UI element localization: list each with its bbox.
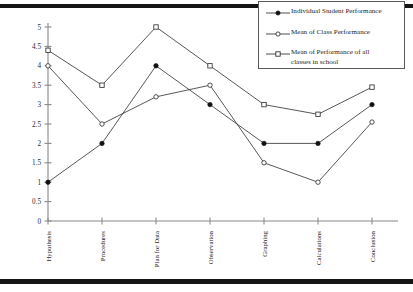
y-tick-label: 2.5: [32, 121, 41, 129]
data-point: [46, 180, 50, 184]
y-axis: 00.511.522.533.544.55: [32, 23, 51, 226]
series-1: [46, 64, 374, 185]
y-tick-label: 4: [37, 62, 41, 70]
legend-marker-filled-circle-icon: [265, 8, 291, 18]
chart-page: 00.511.522.533.544.55 HypothesisProcedur…: [0, 0, 413, 292]
x-tick-label: Calculations: [315, 231, 322, 265]
y-tick-label: 0: [37, 218, 41, 226]
y-tick-label: 2: [37, 140, 41, 148]
y-tick-label: 4.5: [32, 43, 41, 51]
x-tick-label: Procedures: [99, 231, 106, 262]
data-point: [370, 102, 374, 106]
y-tick-label: 3: [37, 101, 41, 109]
series-2: [46, 64, 374, 185]
data-point: [316, 141, 320, 145]
y-tick-label: 5: [37, 24, 41, 32]
data-point: [46, 64, 50, 68]
x-tick-label: Conclusion: [369, 230, 376, 262]
data-point: [154, 95, 158, 99]
legend-item-mean-of-performance-all-classes: Mean of Performance of all classes in sc…: [265, 48, 369, 67]
data-point: [370, 120, 374, 124]
legend-marker-open-square-icon: [265, 49, 291, 59]
y-tick-label: 3.5: [32, 82, 41, 90]
bottom-divider-rule: [0, 279, 413, 284]
data-point: [208, 64, 212, 68]
legend-marker-open-circle-icon: [265, 29, 291, 39]
data-point: [208, 83, 212, 87]
data-point: [316, 112, 320, 116]
y-tick-label: 1: [37, 179, 41, 187]
legend-item-individual-student-performance: Individual Student Performance: [265, 7, 382, 18]
data-point: [100, 122, 104, 126]
data-point: [316, 180, 320, 184]
x-tick-label: Plan for Data: [153, 231, 160, 267]
data-point: [100, 141, 104, 145]
y-tick-label: 1.5: [32, 159, 41, 167]
data-point: [154, 64, 158, 68]
legend-label: Mean of Class Performance: [291, 28, 370, 38]
y-tick-group: 00.511.522.533.544.55: [32, 24, 51, 226]
x-axis: HypothesisProceduresPlan for DataObserva…: [45, 218, 398, 268]
data-point: [208, 102, 212, 106]
data-point: [100, 83, 104, 87]
data-point: [370, 85, 374, 89]
data-point: [262, 102, 266, 106]
legend-item-mean-of-class-performance: Mean of Class Performance: [265, 28, 370, 39]
data-point: [154, 25, 158, 29]
chart-legend: Individual Student Performance Mean of C…: [258, 1, 405, 69]
x-tick-label: Hypothesis: [45, 231, 52, 262]
x-tick-label: Graphing: [261, 230, 268, 256]
legend-label: Individual Student Performance: [291, 7, 382, 17]
data-point: [46, 48, 50, 52]
legend-label: Mean of Performance of all classes in sc…: [291, 48, 369, 67]
data-point: [262, 141, 266, 145]
y-tick-label: 0.5: [32, 198, 41, 206]
x-tick-group: HypothesisProceduresPlan for DataObserva…: [45, 218, 376, 268]
x-tick-label: Observation: [207, 230, 214, 264]
data-point: [262, 161, 266, 165]
